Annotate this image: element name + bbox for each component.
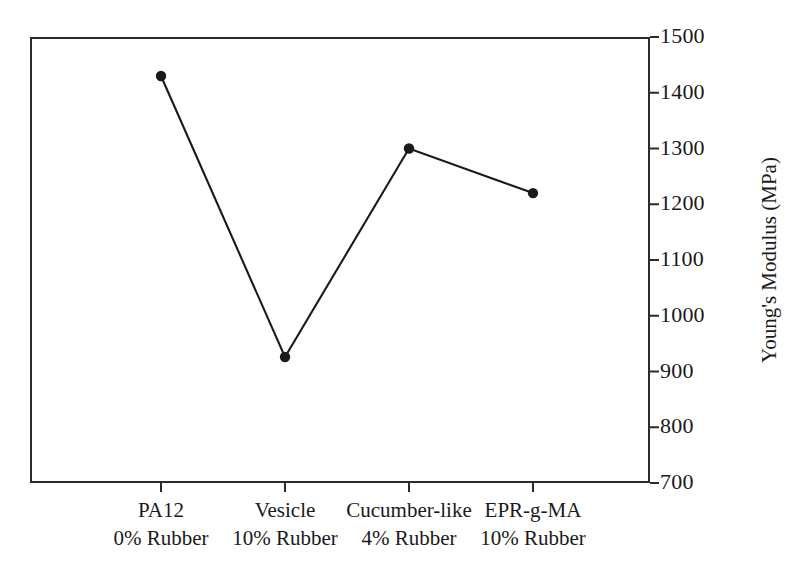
y-tick-label: 1500 [660, 25, 705, 47]
y-tick-label: 800 [660, 415, 694, 437]
x-tick-label-line2: 10% Rubber [448, 524, 618, 552]
plot-area-frame [30, 37, 650, 483]
y-tick-label: 1300 [660, 137, 705, 159]
x-tick-label-group: EPR-g-MA10% Rubber [448, 496, 618, 552]
y-tick-label: 1100 [660, 248, 704, 270]
y-tick-label: 1200 [660, 192, 705, 214]
x-tick-label-line1: EPR-g-MA [448, 496, 618, 524]
y-tick-label: 900 [660, 360, 694, 382]
y-axis-title: Young's Modulus (MPa) [746, 37, 786, 483]
y-tick-label: 700 [660, 471, 694, 493]
y-tick-label: 1400 [660, 81, 705, 103]
y-axis-title-text: Young's Modulus (MPa) [757, 157, 782, 363]
x-axis-tick-marks [161, 483, 533, 492]
y-axis-tick-marks [650, 37, 659, 483]
y-tick-label: 1000 [660, 304, 705, 326]
